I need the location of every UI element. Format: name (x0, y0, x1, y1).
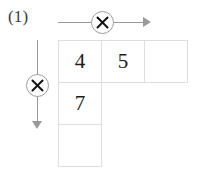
multiply-circle-vertical-icon (26, 74, 49, 97)
grid-row: 7 (58, 82, 187, 124)
figure-canvas: (1) 457 (0, 0, 202, 176)
grid-cell-absent (101, 124, 145, 167)
grid-cell[interactable] (144, 40, 188, 83)
grid-cell-absent (101, 82, 145, 125)
grid-cell[interactable]: 7 (58, 82, 102, 125)
number-grid: 457 (58, 40, 187, 166)
grid-row (58, 124, 187, 166)
grid-cell-absent (144, 82, 188, 125)
vertical-arrow-head (32, 121, 42, 129)
horizontal-arrow-head (143, 17, 151, 27)
multiply-circle-horizontal-icon (91, 11, 114, 34)
grid-cell[interactable]: 5 (101, 40, 145, 83)
grid-row: 45 (58, 40, 187, 82)
problem-number-label: (1) (8, 8, 28, 25)
grid-cell[interactable] (58, 124, 102, 167)
grid-cell-absent (144, 124, 188, 167)
grid-cell[interactable]: 4 (58, 40, 102, 83)
